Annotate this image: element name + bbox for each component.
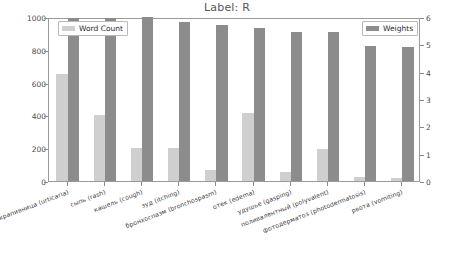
y-left-tick-label: 0 — [6, 178, 46, 187]
bar-weights — [179, 22, 190, 181]
y-right-tick-mark — [420, 73, 424, 74]
plot-area — [48, 18, 420, 182]
bar-word-count — [280, 172, 291, 181]
bar-weights — [105, 18, 116, 181]
y-right-tick-label: 0 — [426, 178, 452, 187]
y-right-tick-label: 5 — [426, 41, 452, 50]
x-tick-mark — [253, 182, 254, 186]
bar-weights — [291, 32, 302, 181]
y-left-tick-label: 600 — [6, 79, 46, 88]
y-right-tick-mark — [420, 127, 424, 128]
y-right-tick-label: 3 — [426, 96, 452, 105]
x-tick-mark — [67, 182, 68, 186]
bar-word-count — [131, 148, 142, 181]
x-tick-mark — [401, 182, 402, 186]
legend-weights[interactable]: Weights — [362, 21, 418, 36]
x-tick-label: крапивница (urticaria) — [0, 188, 69, 221]
bar-weights — [254, 28, 265, 181]
legend-swatch-weights — [366, 26, 379, 31]
bar-weights — [328, 32, 339, 181]
bar-word-count — [354, 177, 365, 181]
bar-weights — [142, 17, 153, 181]
bar-weights — [402, 47, 413, 181]
bar-word-count — [56, 74, 67, 181]
x-tick-mark — [364, 182, 365, 186]
y-left-tick-mark — [44, 182, 48, 183]
y-right-tick-mark — [420, 100, 424, 101]
chart-title: Label: R — [0, 1, 454, 14]
y-right-tick-label: 4 — [426, 68, 452, 77]
legend-label-weights: Weights — [383, 24, 413, 33]
x-tick-mark — [104, 182, 105, 186]
y-right-tick-mark — [420, 45, 424, 46]
y-left-tick-label: 200 — [6, 145, 46, 154]
bar-word-count — [168, 148, 179, 181]
legend-label-word-count: Word Count — [79, 24, 123, 33]
bar-weights — [365, 46, 376, 181]
bar-word-count — [94, 115, 105, 181]
x-tick-mark — [141, 182, 142, 186]
chart-figure: Label: R 02004006008001000 0123456 крапи… — [0, 0, 454, 260]
y-right-tick-label: 1 — [426, 150, 452, 159]
x-tick-mark — [178, 182, 179, 186]
bar-word-count — [317, 149, 328, 181]
x-tick-mark — [290, 182, 291, 186]
y-right-tick-mark — [420, 18, 424, 19]
x-tick-mark — [327, 182, 328, 186]
legend-swatch-word-count — [62, 26, 75, 31]
y-right-tick-label: 2 — [426, 123, 452, 132]
y-left-tick-label: 800 — [6, 46, 46, 55]
y-right-tick-label: 6 — [426, 14, 452, 23]
x-tick-mark — [215, 182, 216, 186]
y-right-tick-mark — [420, 155, 424, 156]
y-left-tick-label: 400 — [6, 112, 46, 121]
bars-layer — [49, 19, 419, 181]
legend-word-count[interactable]: Word Count — [58, 21, 128, 36]
bar-weights — [216, 25, 227, 181]
bar-word-count — [242, 113, 253, 181]
bar-word-count — [205, 170, 216, 181]
y-left-tick-label: 1000 — [6, 14, 46, 23]
y-right-tick-mark — [420, 182, 424, 183]
bar-word-count — [391, 178, 402, 181]
bar-weights — [68, 18, 79, 181]
